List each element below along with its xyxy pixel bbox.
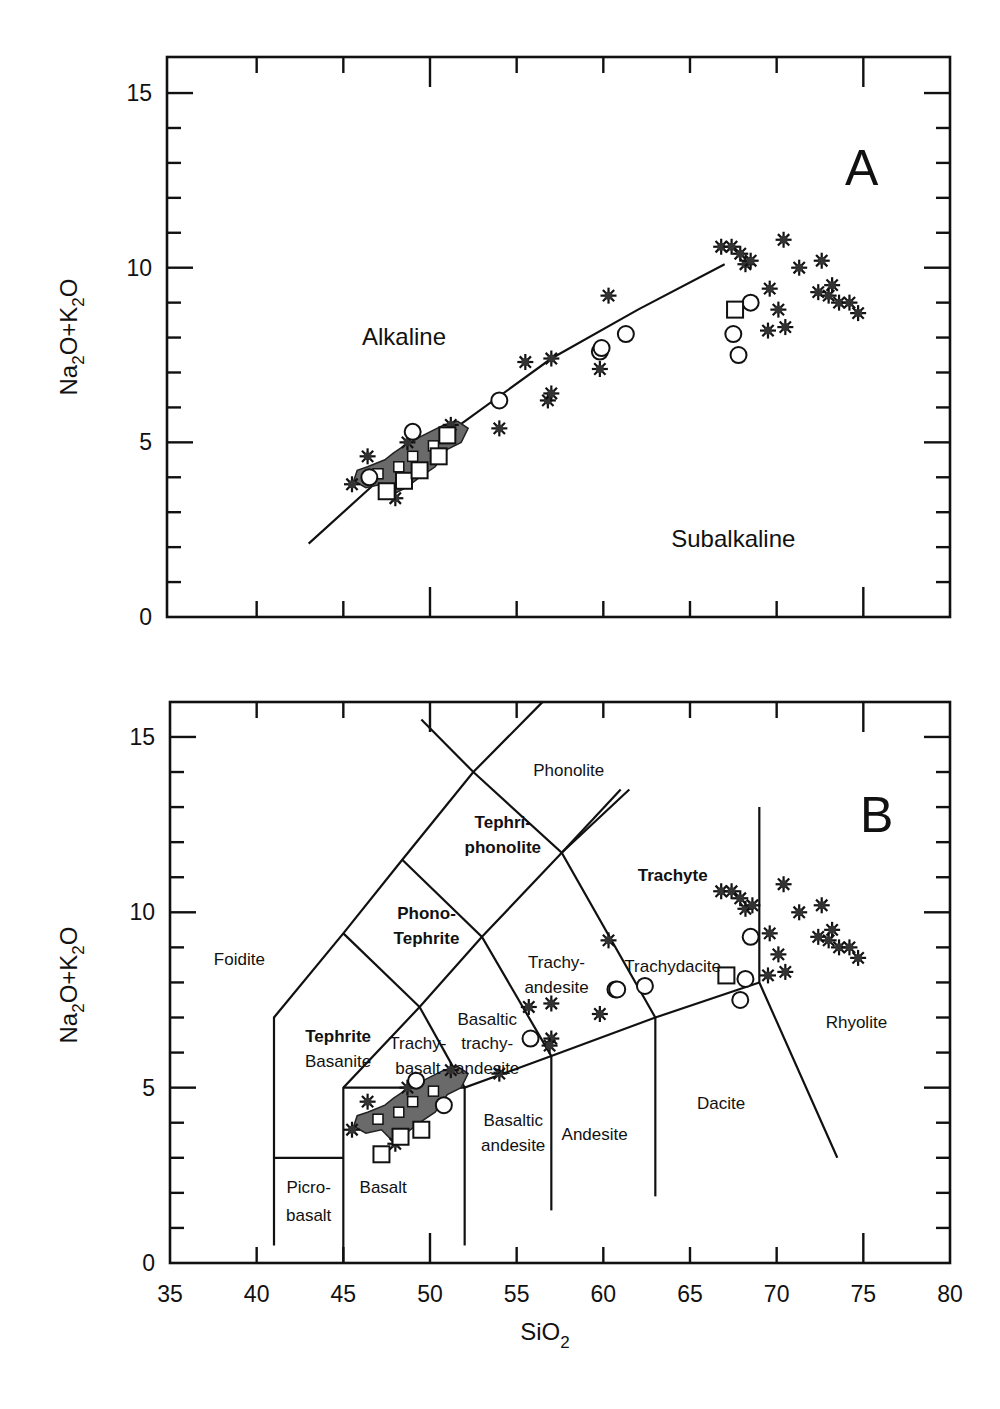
x-tick-label: 50: [417, 1281, 443, 1307]
chart-a: 051015 AlkalineSubalkaline A Na2O+K2O: [55, 57, 950, 630]
asterisk-marker: [762, 281, 778, 297]
field-label: andesite: [481, 1136, 545, 1155]
x-tick-label: 40: [244, 1281, 270, 1307]
chart-b-y-axis-label: Na2O+K2O: [55, 927, 88, 1044]
asterisk-marker: [360, 448, 376, 464]
chart-b-x-tick-labels: 35404550556065707580: [157, 1281, 963, 1307]
asterisk-marker: [770, 946, 786, 962]
y-tick-label: 10: [129, 899, 155, 925]
square-marker: [431, 448, 447, 464]
y-tick-label: 5: [139, 429, 152, 455]
asterisk-marker: [744, 897, 760, 913]
chart-b-panel-label: B: [860, 787, 893, 843]
asterisk-marker: [521, 999, 537, 1015]
x-tick-label: 55: [504, 1281, 530, 1307]
asterisk-marker: [850, 305, 866, 321]
asterisk-marker: [601, 288, 617, 304]
asterisk-marker: [777, 964, 793, 980]
field-label: Dacite: [697, 1094, 745, 1113]
square-marker: [396, 473, 412, 489]
y-tick-label: 15: [126, 80, 152, 106]
chart-a-y-axis-label: Na2O+K2O: [55, 279, 88, 396]
asterisk-marker: [791, 904, 807, 920]
x-tick-label: 80: [937, 1281, 963, 1307]
asterisk-marker: [592, 361, 608, 377]
circle-marker: [743, 295, 759, 311]
field-label: Basanite: [305, 1052, 371, 1071]
chart-a-panel-label: A: [845, 140, 879, 196]
asterisk-marker: [777, 319, 793, 335]
field-label: andesite: [524, 978, 588, 997]
square-marker: [413, 1122, 429, 1138]
asterisk-marker: [776, 876, 792, 892]
tas-figure: 051015 AlkalineSubalkaline A Na2O+K2O 05…: [0, 0, 1000, 1409]
asterisk-marker: [776, 232, 792, 248]
asterisk-marker: [360, 1094, 376, 1110]
x-tick-label: 60: [591, 1281, 617, 1307]
chart-a-ticks: [167, 57, 950, 617]
circle-marker: [732, 992, 748, 1008]
x-tick-label: 65: [677, 1281, 703, 1307]
asterisk-marker: [814, 897, 830, 913]
field-label: phonolite: [465, 838, 541, 857]
asterisk-marker: [770, 302, 786, 318]
field-label: Tephrite: [305, 1027, 371, 1046]
circle-marker: [609, 981, 625, 997]
asterisk-marker: [760, 323, 776, 339]
asterisk-marker: [543, 995, 559, 1011]
circle-marker: [725, 326, 741, 342]
asterisk-marker: [824, 922, 840, 938]
asterisk-marker: [841, 295, 857, 311]
asterisk-marker: [344, 1122, 360, 1138]
circle-marker: [361, 469, 377, 485]
chart-b: 051015 35404550556065707580 PhonoliteTep…: [55, 702, 963, 1352]
x-tick-label: 70: [764, 1281, 790, 1307]
field-label: trachy-: [461, 1034, 513, 1053]
field-label: Andesite: [562, 1125, 628, 1144]
circle-marker: [637, 978, 653, 994]
asterisk-marker: [850, 950, 866, 966]
circle-marker: [743, 929, 759, 945]
square-marker: [412, 462, 428, 478]
x-tick-label: 35: [157, 1281, 183, 1307]
circle-marker: [731, 347, 747, 363]
field-label: Rhyolite: [826, 1013, 887, 1032]
region-label: Subalkaline: [671, 525, 795, 552]
alkaline-subalkaline-divider: [309, 264, 725, 543]
field-label: Basaltic: [483, 1111, 543, 1130]
region-label: Alkaline: [362, 323, 446, 350]
chart-a-frame: [167, 57, 950, 617]
asterisk-marker: [543, 385, 559, 401]
field-label: Basalt: [360, 1178, 408, 1197]
asterisk-marker: [743, 253, 759, 269]
field-label: Trachydacite: [624, 957, 721, 976]
square-marker: [379, 483, 395, 499]
asterisk-marker: [841, 939, 857, 955]
square-marker: [439, 427, 455, 443]
chart-b-y-tick-labels: 051015: [129, 724, 155, 1276]
field-boundary: [562, 790, 621, 853]
circle-marker: [405, 424, 421, 440]
field-boundary: [759, 807, 837, 1158]
circle-marker: [491, 392, 507, 408]
asterisk-marker: [491, 420, 507, 436]
asterisk-marker: [592, 1006, 608, 1022]
circle-marker: [618, 326, 634, 342]
chart-a-data-points: [344, 232, 866, 506]
asterisk-marker: [791, 260, 807, 276]
asterisk-marker: [344, 476, 360, 492]
asterisk-marker: [762, 925, 778, 941]
field-label: Tephri-: [475, 813, 531, 832]
asterisk-marker: [517, 354, 533, 370]
asterisk-marker: [601, 932, 617, 948]
field-label: Picro-: [286, 1178, 330, 1197]
square-marker: [727, 302, 743, 318]
field-label: basalt: [395, 1059, 441, 1078]
field-label: Trachyte: [638, 866, 708, 885]
field-label: Tephrite: [394, 929, 460, 948]
y-tick-label: 10: [126, 255, 152, 281]
field-label: andesite: [455, 1059, 519, 1078]
field-label: Trachy-: [389, 1034, 446, 1053]
field-label: Basaltic: [457, 1010, 517, 1029]
asterisk-marker: [760, 967, 776, 983]
